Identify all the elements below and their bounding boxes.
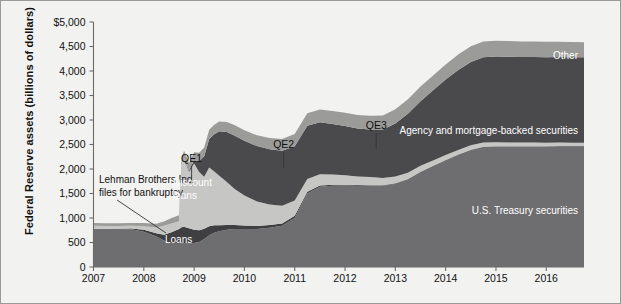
annotation-lehman-leader	[117, 200, 166, 233]
y-tick-label: 0	[80, 261, 86, 273]
series-label-treasury: U.S. Treasury securities	[472, 205, 578, 216]
x-tick-label: 2009	[182, 272, 206, 284]
y-tick-label: 500	[68, 236, 86, 248]
series-label-discount-loans-line1: Discount	[173, 177, 212, 188]
annotation-qe1-label: QE1	[181, 152, 202, 164]
series-label-discount-loans-line2: loans	[173, 190, 197, 201]
y-tick-label: 3,500	[59, 89, 85, 101]
x-tick-label: 2013	[384, 272, 408, 284]
y-tick-label: 2,000	[59, 163, 85, 175]
y-tick-label: 2,500	[59, 138, 85, 150]
axis-lines	[94, 22, 585, 267]
x-tick-label: 2008	[132, 272, 156, 284]
y-tick-label: 3,000	[59, 114, 85, 126]
x-tick-label: 2012	[333, 272, 357, 284]
x-tick-label: 2015	[484, 272, 508, 284]
x-tick-label: 2016	[535, 272, 559, 284]
y-tick-label: 1,500	[59, 187, 85, 199]
x-tick-label: 2011	[283, 272, 306, 284]
plot-annotations: $5,0004,5004,0003,5003,0002,5002,0001,50…	[0, 0, 621, 304]
annotation-qe2-label: QE2	[273, 138, 294, 150]
series-label-loans: Loans	[165, 234, 192, 245]
chart-figure: Federal Reserve assets (billions of doll…	[0, 0, 621, 304]
y-tick-label: 1,000	[59, 212, 85, 224]
x-tick-label: 2010	[233, 272, 257, 284]
x-tick-label: 2014	[434, 272, 458, 284]
y-tick-label: $5,000	[53, 16, 85, 28]
series-label-other: Other	[553, 50, 579, 61]
series-label-agency-mbs: Agency and mortgage-backed securities	[400, 125, 578, 136]
y-tick-label: 4,000	[59, 65, 85, 77]
annotation-qe3-label: QE3	[366, 119, 387, 131]
x-tick-label: 2007	[82, 272, 106, 284]
y-tick-label: 4,500	[59, 40, 85, 52]
